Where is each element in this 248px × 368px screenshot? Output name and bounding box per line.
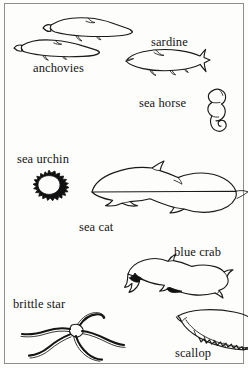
blue-crab-icon [118,250,244,312]
label-anchovies: anchovies [33,62,84,75]
label-sea-urchin: sea urchin [17,153,69,166]
blue-crab-figure [118,250,244,312]
sardine-icon [122,44,216,78]
sea-horse-icon [200,86,234,138]
label-blue-crab: blue crab [174,246,221,259]
label-scallop: scallop [175,347,211,360]
sea-urchin-icon [22,168,76,210]
sea-horse-figure [200,86,234,138]
sea-urchin-figure [22,168,76,210]
label-sardine: sardine [151,36,188,49]
label-sea-horse: sea horse [139,97,186,110]
brittle-star-figure [14,305,138,363]
sardine-figure [122,44,216,78]
sea-cat-figure [86,160,248,222]
label-brittle-star: brittle star [13,298,65,311]
sea-cat-icon [86,160,248,222]
label-sea-cat: sea cat [79,221,113,234]
brittle-star-icon [14,305,138,363]
illustration-plate: anchovies sardine sea horse sea urchin s… [0,0,248,368]
